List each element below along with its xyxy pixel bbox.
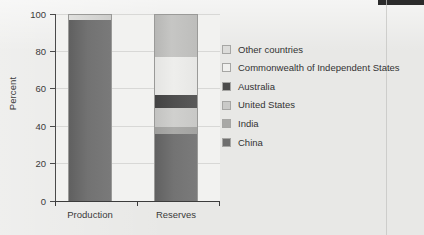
- legend-item-china[interactable]: China: [222, 133, 422, 152]
- x-tick-right-edge: [219, 201, 220, 206]
- y-tick-20: [50, 163, 55, 164]
- legend-item-other-countries[interactable]: Other countries: [222, 40, 422, 59]
- legend-label-china: China: [238, 138, 263, 148]
- y-tick-100: [50, 14, 55, 15]
- bar-segment-reserves-cis[interactable]: [154, 57, 198, 95]
- bar-segment-reserves-india[interactable]: [154, 127, 198, 135]
- y-tick-40: [50, 126, 55, 127]
- legend-item-australia[interactable]: Australia: [222, 77, 422, 96]
- legend-item-cis[interactable]: Commonwealth of Independent States: [222, 59, 422, 78]
- legend-label-united-states: United States: [238, 100, 295, 110]
- legend-label-india: India: [238, 119, 259, 129]
- legend-item-india[interactable]: India: [222, 114, 422, 133]
- y-tick-60: [50, 88, 55, 89]
- y-tick-label-80: 80: [6, 47, 46, 57]
- x-tick-left-edge: [55, 201, 56, 206]
- y-tick-label-0: 0: [6, 197, 46, 207]
- legend-swatch-icon-united-states: [222, 101, 231, 110]
- y-tick-80: [50, 51, 55, 52]
- y-axis-title: Percent: [7, 64, 18, 124]
- legend-swatch-icon-cis: [222, 63, 231, 72]
- y-tick-label-20: 20: [6, 159, 46, 169]
- bar-segment-reserves-other-countries[interactable]: [154, 14, 198, 57]
- bar-segment-reserves-australia[interactable]: [154, 95, 198, 108]
- chart-screenshot: 100 80 60 40 20 0 Percent Production Res…: [0, 0, 424, 235]
- legend-swatch-icon-china: [222, 138, 231, 147]
- legend-swatch-icon-australia: [222, 82, 231, 91]
- legend-swatch-icon-india: [222, 119, 231, 128]
- chart-legend: Other countries Commonwealth of Independ…: [222, 40, 422, 152]
- y-tick-label-100: 100: [6, 10, 46, 20]
- bar-segment-reserves-china[interactable]: [154, 134, 198, 201]
- bar-segment-reserves-united-states[interactable]: [154, 108, 198, 127]
- legend-label-cis: Commonwealth of Independent States: [238, 63, 400, 73]
- legend-swatch-icon-other-countries: [222, 45, 231, 54]
- x-tick-middle: [137, 201, 138, 206]
- y-axis-line: [55, 14, 56, 202]
- x-tick-label-production: Production: [45, 210, 135, 220]
- x-tick-label-reserves: Reserves: [131, 210, 221, 220]
- bar-segment-production-china[interactable]: [68, 20, 112, 201]
- bar-production[interactable]: [68, 14, 112, 202]
- bar-reserves[interactable]: [154, 14, 198, 202]
- legend-item-united-states[interactable]: United States: [222, 96, 422, 115]
- legend-label-other-countries: Other countries: [238, 45, 303, 55]
- legend-label-australia: Australia: [238, 82, 275, 92]
